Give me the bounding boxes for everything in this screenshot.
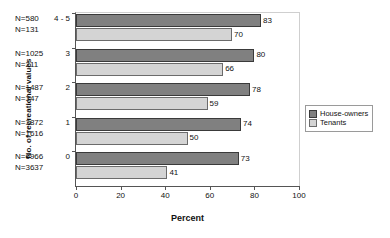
x-axis-tick [210,186,211,190]
y-axis-tick-label: 0 [66,153,70,161]
legend-label-tenants: Tenants [320,119,346,127]
bar-house-owners: 83 [76,14,261,27]
x-axis-tick [121,186,122,190]
y-axis-tick-label: 3 [66,50,70,58]
bar-group: 4 - 5N=580N=1318370 [76,13,299,48]
bar-value-label: 70 [234,31,243,39]
plot-area: 4 - 5N=580N=13183703N=1025N=21180662N=14… [75,12,300,187]
x-axis-tick-label: 0 [74,192,78,200]
bar-tenants: 59 [76,97,208,110]
x-axis-tick-label: 40 [161,192,170,200]
bar-tenants: 41 [76,166,167,179]
bar-tenants: 50 [76,132,188,145]
group-count-label: N=1025 [15,50,57,58]
group-count-label: N=1487 [15,84,57,92]
x-axis-tick [165,186,166,190]
x-axis-tick [76,186,77,190]
group-count-label: N=347 [15,95,57,103]
legend-item-tenants: Tenants [309,119,368,127]
x-axis-tick-label: 60 [205,192,214,200]
bar-house-owners: 80 [76,49,254,62]
bar-value-label: 83 [263,17,272,25]
group-count-label: N=131 [15,26,57,34]
bar-value-label: 50 [190,134,199,142]
y-axis-tick-label: 2 [66,84,70,92]
x-axis-tick [299,186,300,190]
bar-tenants: 66 [76,63,223,76]
bar-value-label: 59 [210,100,219,108]
x-axis-tick [254,186,255,190]
bar-value-label: 41 [169,169,178,177]
group-count-label: N=580 [15,15,57,23]
x-axis-tick-label: 80 [250,192,259,200]
group-count-label: N=211 [15,61,57,69]
bar-group: 2N=1487N=3477859 [76,82,299,117]
bar-group: 0N=6966N=36377341 [76,151,299,186]
legend-swatch-house-owners [309,110,317,118]
group-count-label: N=1616 [15,130,57,138]
legend-label-house-owners: House-owners [320,110,368,118]
x-axis-title: Percent [75,213,300,223]
chart-legend: House-owners Tenants [305,105,373,132]
bar-group: 3N=1025N=2118066 [76,48,299,83]
bar-tenants: 70 [76,28,232,41]
group-count-label: N=3637 [15,164,57,172]
y-axis-tick-label: 1 [66,119,70,127]
bar-value-label: 74 [243,120,252,128]
bar-value-label: 66 [225,65,234,73]
group-count-label: N=3872 [15,119,57,127]
bar-house-owners: 74 [76,118,241,131]
bar-value-label: 78 [252,86,261,94]
bar-group: 1N=3872N=16167450 [76,117,299,152]
bar-house-owners: 78 [76,83,250,96]
bar-chart: No. of recreational values 4 - 5N=580N=1… [0,0,390,238]
group-count-label: N=6966 [15,153,57,161]
bar-value-label: 73 [241,155,250,163]
bar-value-label: 80 [256,51,265,59]
legend-item-house-owners: House-owners [309,110,368,118]
x-axis-tick-label: 100 [292,192,305,200]
bar-house-owners: 73 [76,152,239,165]
legend-swatch-tenants [309,119,317,127]
x-axis-tick-label: 20 [116,192,125,200]
